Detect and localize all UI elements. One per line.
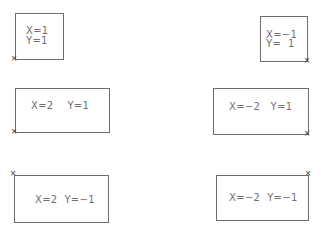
anchor-marker-icon: ×: [304, 170, 312, 178]
box-x1-y1-label-y: Y=1: [26, 36, 48, 46]
box-xneg2-y1-label: X=−2 Y=1: [229, 102, 292, 112]
anchor-marker-icon: ×: [303, 130, 311, 138]
anchor-marker-icon: ×: [10, 128, 18, 136]
box-xneg1-y1-label-y: Y= 1: [266, 39, 295, 49]
box-xneg2-yneg1-label: X=−2 Y=−1: [229, 193, 298, 203]
box-x2-y1-label: X=2 Y=1: [31, 101, 89, 111]
anchor-marker-icon: ×: [10, 55, 18, 63]
box-x2-yneg1-label: X=2 Y=−1: [35, 195, 95, 205]
anchor-marker-icon: ×: [303, 57, 311, 65]
anchor-marker-icon: ×: [9, 170, 17, 178]
